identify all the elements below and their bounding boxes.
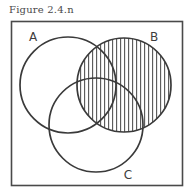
venn-diagram: A B C: [0, 0, 193, 196]
label-set-a: A: [29, 30, 38, 44]
label-set-b: B: [150, 30, 158, 44]
label-set-c: C: [124, 168, 132, 182]
figure-container: Figure 2.4.n A B C: [0, 0, 193, 196]
